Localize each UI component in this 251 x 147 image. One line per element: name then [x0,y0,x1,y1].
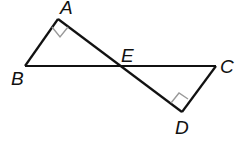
segment-cd [182,66,216,112]
label-b: B [11,68,24,89]
geometry-diagram: A B E C D [0,0,251,147]
label-e: E [121,45,134,66]
right-angle-mark-a [52,27,68,37]
segment-ab [25,19,58,66]
right-angle-mark-d [171,93,188,103]
label-a: A [59,0,73,18]
label-d: D [175,117,189,138]
label-c: C [220,56,234,77]
